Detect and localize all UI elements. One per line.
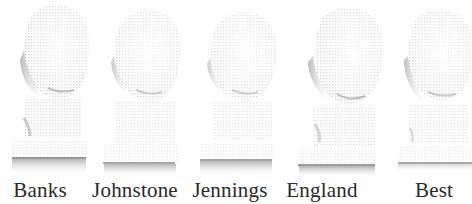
bust-sculpture-icon [293,0,389,178]
bust-banks [4,0,96,178]
bust-england [293,0,389,178]
bust-sculpture-icon [4,0,96,178]
busts-figure: Banks Johnstone Jennings England Best [0,0,472,204]
caption-best: Best [415,178,453,202]
bust-jennings [196,0,288,178]
bust-sculpture-icon [394,0,472,178]
caption-banks: Banks [13,178,67,202]
caption-england: England [286,178,357,202]
bust-johnstone [98,0,190,178]
bust-sculpture-icon [196,0,288,178]
bust-sculpture-icon [98,0,190,178]
bust-best [394,0,472,178]
caption-johnstone: Johnstone [92,178,178,202]
caption-jennings: Jennings [192,178,267,202]
